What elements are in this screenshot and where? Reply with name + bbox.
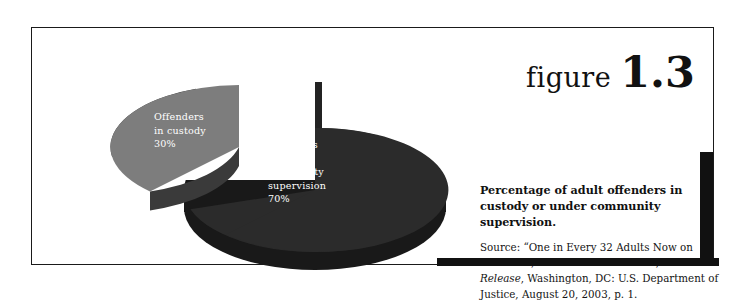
figure-label: figure: [526, 62, 611, 93]
right-accent-bar: [700, 152, 713, 265]
pie-chart: Offenders in custody 30% Offenders under…: [72, 60, 472, 285]
source-note: Source: “One in Every 32 Adults Now on P…: [480, 240, 720, 302]
pie-label-community: Offenders under community supervision 70…: [268, 138, 326, 206]
figure-number-value: 1.3: [620, 53, 695, 92]
figure-frame: figure 1.3: [31, 27, 714, 265]
pie-label-custody: Offenders in custody 30%: [154, 110, 206, 151]
caption-title: Percentage of adult offenders in custody…: [480, 183, 720, 231]
caption-block: Percentage of adult offenders in custody…: [480, 183, 720, 302]
figure-number: figure 1.3: [526, 53, 695, 93]
bottom-accent-bar: [437, 258, 719, 266]
